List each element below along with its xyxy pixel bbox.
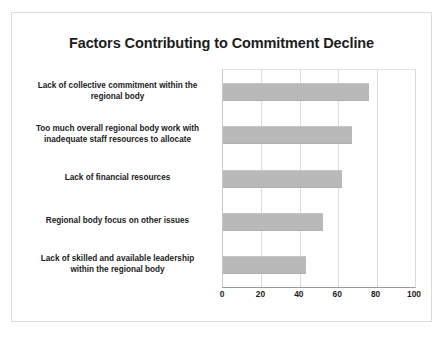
plot-area xyxy=(222,69,416,288)
x-axis-tick-label: 100 xyxy=(407,289,421,299)
x-axis-tick-label: 80 xyxy=(371,289,380,299)
bar-row xyxy=(223,157,415,200)
category-axis-cell: Regional body focus on other issues xyxy=(16,199,222,242)
category-label: Lack of skilled and available leadership… xyxy=(16,253,222,275)
x-axis-tick-label: 20 xyxy=(256,289,265,299)
bar-row xyxy=(223,70,415,113)
bar xyxy=(223,83,369,101)
x-axis-tick-label: 0 xyxy=(220,289,225,299)
category-label: Regional body focus on other issues xyxy=(16,215,222,226)
gridline xyxy=(415,70,416,287)
category-axis-cell: Lack of collective commitment within the… xyxy=(16,69,222,112)
bar xyxy=(223,126,352,144)
bar-row xyxy=(223,244,415,287)
chart-plot-wrapper: Lack of collective commitment within the… xyxy=(12,69,433,314)
bar xyxy=(223,170,342,188)
bar-row xyxy=(223,113,415,156)
chart-title: Factors Contributing to Commitment Decli… xyxy=(12,35,431,51)
category-label: Lack of collective commitment within the… xyxy=(16,80,222,102)
chart-slide: Factors Contributing to Commitment Decli… xyxy=(11,12,432,322)
bar xyxy=(223,256,306,274)
value-axis: 020406080100 xyxy=(222,289,416,305)
category-axis: Lack of collective commitment within the… xyxy=(16,69,222,286)
bar-row xyxy=(223,200,415,243)
category-axis-cell: Lack of financial resources xyxy=(16,156,222,199)
x-axis-tick-label: 40 xyxy=(294,289,303,299)
bar xyxy=(223,213,323,231)
category-label: Lack of financial resources xyxy=(16,172,222,183)
bar-series xyxy=(223,70,415,287)
category-label: Too much overall regional body work with… xyxy=(16,123,222,145)
x-axis-tick-label: 60 xyxy=(333,289,342,299)
category-axis-cell: Lack of skilled and available leadership… xyxy=(16,243,222,286)
category-axis-cell: Too much overall regional body work with… xyxy=(16,112,222,155)
